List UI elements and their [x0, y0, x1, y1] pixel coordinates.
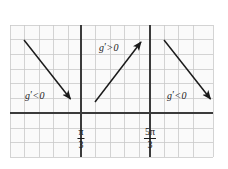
annotation-right-prime: ′ [172, 89, 174, 100]
annotation-middle-value: 0 [113, 42, 118, 53]
annotation-left-g-prime-negative: g′<0 [25, 91, 45, 101]
annotation-right-g-prime-negative: g′<0 [167, 91, 187, 101]
x-tick-label-pi-over-3: π 3 [76, 127, 85, 150]
x-tick-pi-over-3-numerator: π [76, 127, 85, 138]
x-tick-five-pi-over-3-numerator: 5π [143, 127, 157, 138]
annotation-right-value: 0 [181, 90, 186, 101]
figure-canvas: g′<0 g′>0 g′<0 π 3 5π 3 [0, 0, 228, 169]
x-tick-five-pi-over-3-denominator: 3 [143, 140, 157, 151]
x-tick-label-five-pi-over-3: 5π 3 [143, 127, 157, 150]
annotation-middle-prime: ′ [104, 41, 106, 52]
x-tick-pi-over-3-denominator: 3 [76, 140, 85, 151]
annotation-middle-g-prime-positive: g′>0 [99, 43, 119, 53]
graph-plot-area [0, 0, 228, 169]
annotation-left-prime: ′ [30, 89, 32, 100]
annotation-left-value: 0 [39, 90, 44, 101]
